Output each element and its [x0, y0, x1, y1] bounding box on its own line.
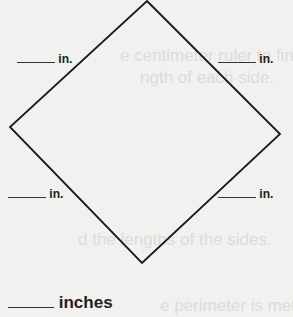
unit-label: in.: [49, 187, 63, 201]
unit-label: in.: [259, 52, 273, 66]
diamond-figure: [0, 0, 293, 317]
perimeter-answer: inches: [8, 293, 113, 313]
side-label-bottom-left: in.: [8, 187, 63, 201]
side-label-bottom-right: in.: [218, 187, 273, 201]
side-label-top-left: in.: [17, 52, 72, 66]
answer-blank[interactable]: [218, 62, 256, 63]
unit-label: in.: [58, 52, 72, 66]
answer-blank[interactable]: [17, 62, 55, 63]
unit-label: in.: [259, 187, 273, 201]
answer-blank[interactable]: [8, 197, 46, 198]
answer-blank[interactable]: [218, 197, 256, 198]
side-label-top-right: in.: [218, 52, 273, 66]
perimeter-unit-label: inches: [59, 293, 113, 312]
perimeter-blank[interactable]: [8, 307, 54, 308]
